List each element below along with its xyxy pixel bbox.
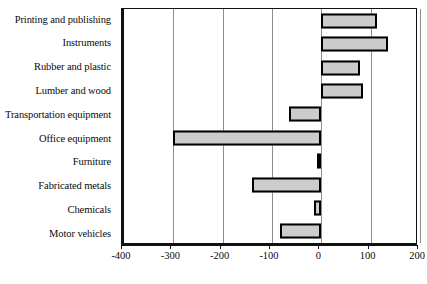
bar-row: [124, 149, 416, 172]
bar: [321, 60, 360, 75]
bar: [252, 177, 321, 192]
category-label: Lumber and wood: [0, 79, 116, 103]
tick-label: -100: [259, 250, 278, 261]
bar-row: [124, 56, 416, 79]
category-label: Furniture: [0, 151, 116, 175]
tick-mark: [417, 245, 418, 249]
category-label: Printing and publishing: [0, 8, 116, 32]
bar-row: [124, 32, 416, 55]
tick-label: 0: [316, 250, 321, 261]
category-label: Office equipment: [0, 127, 116, 151]
tick-label: -400: [111, 250, 130, 261]
tick-mark: [220, 245, 221, 249]
category-label: Motor vehicles: [0, 222, 116, 246]
tick-mark: [368, 245, 369, 249]
tick-mark: [318, 245, 319, 249]
bar-row: [124, 196, 416, 219]
bar: [314, 200, 321, 215]
bar: [321, 13, 376, 28]
bar-row: [124, 79, 416, 102]
tick-label: 100: [360, 250, 376, 261]
bar: [280, 224, 321, 239]
tick-mark: [170, 245, 171, 249]
category-label: Transportation equipment: [0, 103, 116, 127]
category-label: Fabricated metals: [0, 175, 116, 199]
plot-area: [121, 8, 417, 246]
tick-mark: [121, 245, 122, 249]
bar: [321, 83, 363, 98]
category-label: Chemicals: [0, 198, 116, 222]
bar-row: [124, 126, 416, 149]
bars-layer: [124, 9, 416, 243]
category-label: Instruments: [0, 32, 116, 56]
tick-mark: [269, 245, 270, 249]
bar: [321, 37, 388, 52]
tick-label: -300: [161, 250, 180, 261]
bar-row: [124, 173, 416, 196]
bar-row: [124, 103, 416, 126]
tick-label: 200: [409, 250, 425, 261]
tick-label: -200: [210, 250, 229, 261]
bar-row: [124, 220, 416, 243]
bar-row: [124, 9, 416, 32]
bar-chart: Printing and publishingInstrumentsRubber…: [0, 0, 427, 284]
bar: [317, 154, 321, 169]
bar: [289, 107, 321, 122]
gridline: [420, 9, 421, 243]
category-axis: Printing and publishingInstrumentsRubber…: [0, 8, 116, 246]
value-axis: -400-300-200-1000100200: [121, 249, 417, 269]
category-label: Rubber and plastic: [0, 56, 116, 80]
bar: [173, 130, 321, 145]
